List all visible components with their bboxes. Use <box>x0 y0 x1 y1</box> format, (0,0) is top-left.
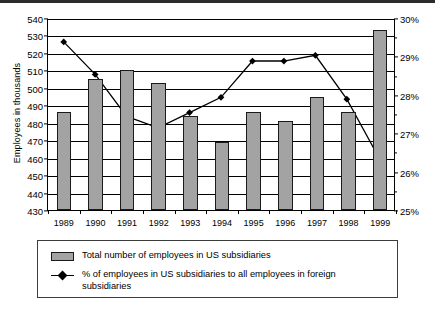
x-axis-label-1990: 1990 <box>85 218 105 228</box>
chart-legend: Total number of employees in US subsidia… <box>37 240 398 298</box>
y-axis-tick-label: 430 <box>27 206 43 217</box>
x-axis-label-1996: 1996 <box>275 218 295 228</box>
bar-1995 <box>246 112 261 210</box>
scan-edge-band <box>0 0 435 3</box>
gridline <box>48 54 394 55</box>
y2-axis-tick-label: 28% <box>400 90 419 101</box>
y-axis-tick-label: 490 <box>27 101 43 112</box>
x-axis-label-1997: 1997 <box>307 218 327 228</box>
y-axis-tick-mark <box>44 88 48 89</box>
x-axis-tick-mark <box>269 210 270 214</box>
y-axis-tick-mark <box>44 71 48 72</box>
y-axis-tick-label: 500 <box>27 83 43 94</box>
y-axis-tick-mark <box>44 106 48 107</box>
plot-area: 43044045046047048049050051052053054025%2… <box>47 19 395 211</box>
chart-plot-region: Employees in thousands 43044045046047048… <box>0 8 435 233</box>
y-axis-tick-mark <box>44 193 48 194</box>
gridline <box>48 36 394 37</box>
x-axis-tick-mark <box>301 210 302 214</box>
bar-1998 <box>341 112 356 210</box>
x-axis-label-1991: 1991 <box>117 218 137 228</box>
y-axis-tick-mark <box>44 18 48 19</box>
bar-1989 <box>57 112 72 210</box>
x-axis-tick-mark <box>333 210 334 214</box>
y-axis-tick-mark <box>44 123 48 124</box>
y2-axis-tick-mark <box>394 18 398 19</box>
y2-axis-tick-mark <box>394 172 398 173</box>
x-axis-tick-mark <box>143 210 144 214</box>
y2-axis-tick-mark <box>394 95 398 96</box>
x-axis-tick-mark <box>364 210 365 214</box>
y-axis-tick-label: 540 <box>27 14 43 25</box>
y-axis-tick-mark <box>44 53 48 54</box>
y-axis-tick-label: 450 <box>27 171 43 182</box>
y2-axis-tick-label: 26% <box>400 167 419 178</box>
y-axis-tick-mark <box>44 141 48 142</box>
y-axis-tick-label: 520 <box>27 48 43 59</box>
bar-1994 <box>215 142 230 210</box>
y-axis-tick-mark <box>44 175 48 176</box>
gridline-top <box>48 19 394 20</box>
x-axis-tick-mark <box>48 210 49 214</box>
gridline <box>48 71 394 72</box>
bar-1993 <box>183 116 198 210</box>
y-axis-title: Employees in thousands <box>12 33 22 193</box>
x-axis-tick-mark <box>111 210 112 214</box>
y2-axis-minor-tick-mark <box>394 191 397 192</box>
bar-1996 <box>278 121 293 210</box>
x-axis-label-1993: 1993 <box>180 218 200 228</box>
x-axis-label-1992: 1992 <box>149 218 169 228</box>
y2-axis-tick-label: 27% <box>400 129 419 140</box>
x-axis-label-1998: 1998 <box>339 218 359 228</box>
y-axis-tick-mark <box>44 36 48 37</box>
y2-axis-minor-tick-mark <box>394 76 397 77</box>
bar-1997 <box>310 97 325 210</box>
y2-axis-minor-tick-mark <box>394 153 397 154</box>
y-axis-tick-label: 530 <box>27 31 43 42</box>
bar-1990 <box>88 79 103 210</box>
legend-line-diamond-icon <box>51 270 74 281</box>
bar-1999 <box>373 30 388 210</box>
y2-axis-tick-mark <box>394 57 398 58</box>
y-axis-tick-label: 510 <box>27 66 43 77</box>
x-axis-label-1989: 1989 <box>54 218 74 228</box>
legend-label-line-series: % of employees in US subsidiaries to all… <box>82 269 382 292</box>
y2-axis-minor-tick-mark <box>394 114 397 115</box>
y-axis-tick-label: 460 <box>27 153 43 164</box>
legend-item-line-series: % of employees in US subsidiaries to all… <box>51 269 382 292</box>
chart-page: Employees in thousands 43044045046047048… <box>0 0 435 311</box>
y2-axis-tick-label: 25% <box>400 206 419 217</box>
y2-axis-tick-label: 30% <box>400 14 419 25</box>
x-axis-tick-mark <box>396 210 397 214</box>
legend-item-bar-series: Total number of employees in US subsidia… <box>51 250 271 262</box>
y2-axis-tick-mark <box>394 134 398 135</box>
legend-label-bar-series: Total number of employees in US subsidia… <box>82 250 271 262</box>
y-axis-tick-mark <box>44 158 48 159</box>
x-axis-label-1999: 1999 <box>370 218 390 228</box>
y-axis-tick-label: 470 <box>27 136 43 147</box>
y2-axis-minor-tick-mark <box>394 38 397 39</box>
y2-axis-tick-label: 29% <box>400 52 419 63</box>
x-axis-tick-mark <box>206 210 207 214</box>
bar-1991 <box>120 70 135 210</box>
bar-1992 <box>151 83 166 210</box>
legend-bar-swatch-icon <box>51 252 74 261</box>
y-axis-tick-label: 480 <box>27 118 43 129</box>
x-axis-tick-mark <box>175 210 176 214</box>
y-axis-tick-label: 440 <box>27 188 43 199</box>
x-axis-label-1994: 1994 <box>212 218 232 228</box>
line-marker-1996 <box>281 58 288 65</box>
x-axis-label-1995: 1995 <box>244 218 264 228</box>
x-axis-tick-mark <box>238 210 239 214</box>
x-axis-tick-mark <box>80 210 81 214</box>
